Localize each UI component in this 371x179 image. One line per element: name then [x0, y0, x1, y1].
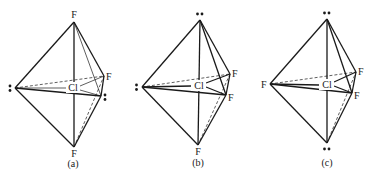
- atom-label-top: F: [71, 9, 77, 20]
- panel-caption: (c): [321, 157, 332, 169]
- edge-top-backright: [327, 19, 356, 72]
- clf3-geometry-diagram: Cl F F F (a): [0, 0, 371, 179]
- panel-c: Cl F F F (c): [261, 12, 364, 169]
- edge-left-bottom: [15, 88, 74, 147]
- panel-b: Cl F F F (b): [135, 13, 238, 169]
- edge-bottom-frontright: [74, 96, 101, 147]
- atom-label-frontright: F: [354, 90, 360, 101]
- edge-backright-frontright: [101, 76, 104, 96]
- lone-pair-left: [9, 85, 12, 92]
- lone-pair-frontright: [104, 94, 107, 101]
- atom-label-backright: F: [358, 66, 364, 77]
- lone-pair-top: [196, 13, 203, 16]
- atom-label-backright: F: [106, 71, 112, 82]
- panel-c-edges: [270, 19, 356, 143]
- panel-a-edges: [15, 22, 104, 147]
- edge-bottom-frontright: [327, 93, 352, 143]
- edge-top-backright: [74, 22, 104, 76]
- edge-left-bottom: [142, 87, 198, 145]
- bond-cl-backright: [206, 74, 230, 83]
- panel-a: Cl F F F (a): [9, 9, 112, 170]
- edge-top-backright: [200, 20, 230, 74]
- central-atom-label: Cl: [194, 80, 204, 91]
- edge-left-backright-hidden: [142, 74, 230, 87]
- lone-pair-top: [323, 12, 330, 15]
- lone-pair-left: [135, 84, 138, 91]
- edge-top-left: [15, 22, 74, 88]
- panel-b-edges: [142, 20, 230, 145]
- edge-top-left: [270, 19, 327, 84]
- atom-label-frontright: F: [228, 92, 234, 103]
- lone-pair-bottom: [323, 148, 330, 151]
- atom-label-left: F: [261, 79, 267, 90]
- edge-bottom-frontright: [198, 95, 226, 145]
- atom-label-bottom: F: [195, 146, 201, 157]
- edge-top-left: [142, 20, 200, 87]
- edge-left-bottom: [270, 84, 327, 143]
- central-atom-label: Cl: [322, 79, 332, 90]
- edge-left-frontright: [142, 87, 226, 95]
- panel-caption: (b): [192, 157, 204, 169]
- central-atom-label: Cl: [68, 82, 78, 93]
- atom-label-backright: F: [232, 68, 238, 79]
- panel-caption: (a): [67, 158, 78, 170]
- edge-left-backright-hidden: [15, 76, 104, 88]
